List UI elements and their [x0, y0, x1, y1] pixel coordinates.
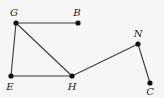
point-n [135, 41, 140, 46]
point-h [69, 73, 74, 78]
point-e [8, 73, 13, 78]
point-label-b: B [72, 7, 80, 18]
edges-layer [11, 23, 150, 83]
graph-svg: GBEHNC [0, 0, 164, 98]
point-c [147, 80, 152, 85]
point-label-n: N [133, 28, 144, 39]
point-label-g: G [10, 7, 18, 18]
point-label-e: E [5, 81, 14, 92]
edge-g-h [16, 23, 72, 76]
labels-layer: GBEHNC [5, 7, 154, 97]
edge-g-e [11, 23, 16, 76]
point-label-h: H [67, 81, 77, 92]
point-label-c: C [146, 86, 154, 97]
graph-diagram: GBEHNC [0, 0, 164, 98]
edge-n-c [138, 44, 150, 83]
point-b [75, 20, 80, 25]
edge-h-n [72, 44, 138, 76]
point-g [13, 20, 18, 25]
